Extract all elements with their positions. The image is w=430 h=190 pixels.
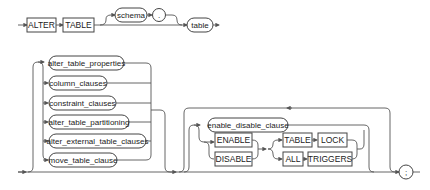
- dot-separator-label: .: [158, 11, 160, 20]
- alter-table-properties-label: alter_table_properties: [48, 59, 125, 68]
- enable-disable-clause-label: enable_disable_clause: [207, 121, 289, 130]
- move-table-clause-label: move_table_clause: [49, 156, 118, 165]
- disable-keyword: DISABLE: [216, 154, 252, 164]
- enable-keyword: ENABLE: [217, 135, 251, 145]
- lock-keyword: LOCK: [321, 135, 344, 145]
- table-name-label: table: [191, 21, 209, 30]
- schema-label: schema: [117, 11, 146, 20]
- triggers-keyword: TRIGGERS: [308, 154, 353, 164]
- column-clauses-label: column_clauses: [49, 79, 106, 88]
- enable-disable-repeat-group: enable_disable_clause ENABLE DISABLE TAB…: [179, 108, 395, 172]
- row-alter-table: ALTER TABLE schema . table: [18, 8, 219, 32]
- alter-external-table-clauses-label: alter_external_table_clauses: [47, 137, 149, 146]
- clause-choice-group: alter_table_properties column_clauses co…: [28, 56, 176, 172]
- all-keyword: ALL: [285, 154, 300, 164]
- alter-table-syntax-diagram: ALTER TABLE schema . table alter_table_p…: [0, 0, 430, 190]
- alter-table-partitioning-label: alter_table_partitioning: [49, 118, 130, 127]
- alter-keyword: ALTER: [28, 20, 55, 30]
- table-lock-table-keyword: TABLE: [284, 135, 311, 145]
- semicolon-terminator-label: ;: [405, 168, 407, 177]
- table-keyword: TABLE: [65, 20, 92, 30]
- constraint-clauses-label: constraint_clauses: [49, 99, 115, 108]
